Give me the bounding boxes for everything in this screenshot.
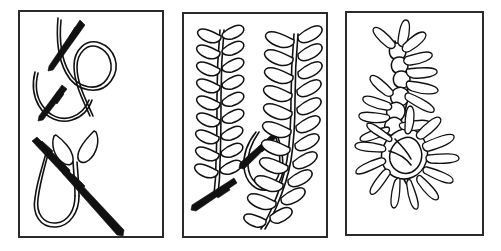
fern-leaf-right (298, 62, 322, 79)
spike-l7 (407, 180, 419, 210)
feather-leaf-left (195, 164, 218, 178)
spike-l9 (370, 169, 390, 194)
spike-l11 (355, 142, 386, 152)
feather-leaf-left (196, 130, 219, 144)
feather-leaf-left (197, 62, 220, 76)
feather-leaf-right (222, 92, 244, 106)
diagram-canvas (0, 0, 501, 251)
needle-long-through-stem (62, 169, 124, 236)
spike-u4 (404, 52, 432, 65)
fig-2b-long-arm-fern-row (244, 26, 322, 229)
fern-leaf-left (262, 122, 291, 138)
fern-leaf-left (265, 32, 294, 48)
feather-leaf-pair-4 (197, 75, 244, 92)
fern-leaf-left (244, 214, 266, 227)
spike-u1 (373, 27, 395, 48)
fern-leaf-right (297, 80, 321, 97)
feather-leaf-pair-8 (196, 143, 243, 160)
fern-leaf-left (264, 50, 293, 66)
fern-leaf-right (298, 26, 322, 43)
spike-l5 (423, 167, 453, 183)
fig-1a-loop-with-needle (33, 18, 116, 121)
spike-l4 (426, 154, 459, 163)
feather-leaf-right (222, 58, 244, 72)
fern-leaf-right (293, 152, 317, 169)
feather-leaf-pair-9 (195, 160, 242, 177)
fern-leaf-right (288, 170, 312, 187)
panel-1 (18, 10, 164, 238)
fern-leaf-right (297, 98, 321, 115)
fern-leaf-right (281, 188, 305, 205)
fern-leaf-left (263, 104, 292, 120)
fern-leaf-right (296, 116, 320, 133)
fern-leaf-right (298, 44, 322, 61)
panel-2-artwork (182, 12, 328, 238)
spike-l8 (391, 178, 400, 208)
panel-3-artwork (345, 11, 484, 236)
feather-leaf-pair-7 (196, 126, 243, 143)
fern-leaf-right (270, 208, 292, 224)
needle-upper (48, 20, 85, 71)
needle-mid-stitch-lower-body (191, 178, 237, 211)
fern-leaf-left (261, 140, 290, 156)
fern-leaf-left (264, 68, 293, 84)
feather-leaf-pair-1 (198, 25, 244, 42)
feather-leaf-right (222, 41, 244, 55)
fig-3a-spiked-chain (355, 20, 459, 209)
feather-leaf-right (222, 75, 244, 89)
needle-mid-stitch-lower (191, 178, 237, 211)
feather-leaf-pair-2 (197, 41, 244, 58)
feather-leaf-right (222, 109, 244, 123)
panel-3 (345, 11, 484, 236)
feather-leaf-left (198, 29, 221, 43)
spike-m1 (370, 75, 393, 96)
spike-u5 (406, 68, 437, 78)
needle-upper-body (48, 20, 85, 71)
feather-leaf-pair-3 (197, 58, 244, 75)
feather-leaf-right (220, 160, 242, 174)
feather-leaf-right (221, 143, 243, 157)
panel-1-artwork (18, 10, 164, 238)
panel-2 (182, 12, 328, 238)
fern-leaf-right (295, 134, 319, 151)
spike-m2 (363, 96, 392, 110)
spike-l3 (423, 134, 455, 151)
fig-1b-v-stitch-with-needle (32, 131, 124, 236)
spike-m3 (359, 112, 390, 122)
feather-leaf-left (196, 147, 219, 161)
spike-u6 (406, 81, 438, 94)
spike-l10 (356, 158, 386, 174)
feather-leaf-right (221, 126, 243, 140)
fig-2a-close-feather-row (195, 25, 244, 194)
fern-leaf-left (263, 86, 292, 102)
fern-leaf-left (259, 158, 288, 174)
fern-leaf-left (247, 194, 276, 210)
v-arm-right (78, 131, 98, 162)
thread-loop-inner (60, 20, 111, 116)
feather-leaf-left (197, 45, 220, 59)
feather-leaf-right (222, 25, 244, 39)
